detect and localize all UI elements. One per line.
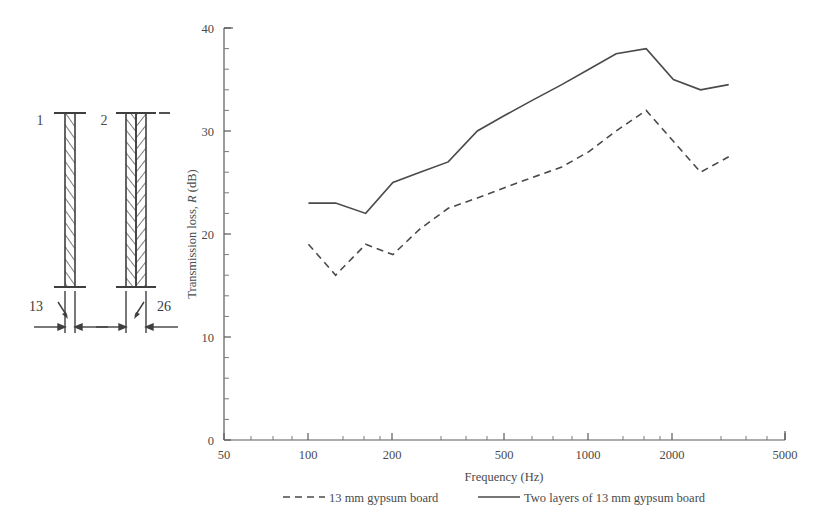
- y-tick-label-40: 40: [202, 22, 215, 36]
- legend-label-solid: Two layers of 13 mm gypsum board: [524, 491, 706, 505]
- x-tick-label-5000: 5000: [773, 448, 798, 462]
- x-tick-label-200: 200: [383, 448, 402, 462]
- y-tick-label-10: 10: [202, 331, 215, 345]
- y-tick-label-30: 30: [202, 125, 215, 139]
- x-axis-title: Frequency (Hz): [465, 470, 544, 484]
- series-line-13mm: [308, 110, 728, 275]
- y-tick-label-20: 20: [202, 228, 215, 242]
- y-axis-title-tail: (dB): [185, 169, 199, 195]
- x-tick-label-500: 500: [495, 448, 514, 462]
- series-line-two-layers: [308, 49, 728, 214]
- data-series-group: [308, 49, 728, 276]
- x-axis-ticks: [224, 433, 785, 440]
- y-axis-title: Transmission loss, R (dB): [185, 169, 199, 298]
- x-axis-tick-labels: 50 100 200 500 1000 2000 5000: [218, 448, 798, 462]
- legend-entry-dashed: 13 mm gypsum board: [283, 491, 439, 505]
- y-axis-title-plain: Transmission loss,: [185, 203, 199, 299]
- y-axis-title-italic: R: [185, 195, 199, 204]
- x-tick-label-50: 50: [218, 448, 231, 462]
- x-tick-label-100: 100: [299, 448, 318, 462]
- x-tick-label-2000: 2000: [660, 448, 685, 462]
- legend-entry-solid: Two layers of 13 mm gypsum board: [478, 491, 706, 505]
- y-axis-tick-labels: 0 10 20 30 40: [202, 22, 215, 448]
- transmission-loss-chart: 0 10 20 30 40 Transmission loss, R (dB): [0, 0, 825, 520]
- figure-container: 1 2: [0, 0, 825, 520]
- chart-legend: 13 mm gypsum board Two layers of 13 mm g…: [283, 491, 706, 505]
- x-tick-label-1000: 1000: [576, 448, 601, 462]
- legend-label-dashed: 13 mm gypsum board: [329, 491, 439, 505]
- y-tick-label-0: 0: [208, 434, 214, 448]
